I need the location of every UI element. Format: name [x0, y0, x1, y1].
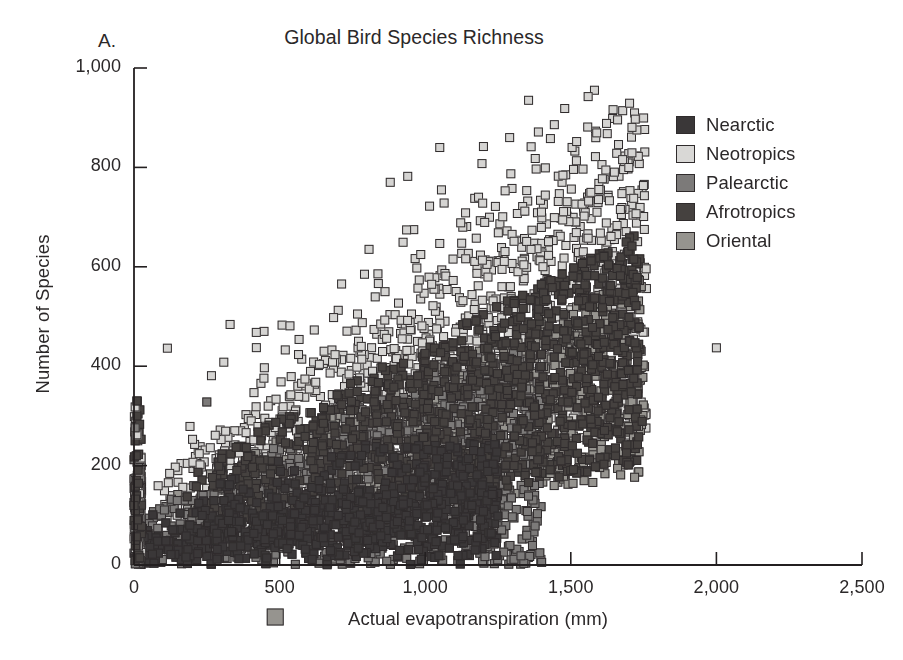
legend-swatch-icon	[676, 116, 695, 134]
x-tick-label: 2,000	[661, 577, 771, 598]
y-tick-label: 1,000	[31, 56, 121, 77]
legend-item-afrotropics[interactable]: Afrotropics	[676, 197, 796, 226]
x-axis-title: Actual evapotranspiration (mm)	[198, 608, 758, 630]
y-tick-label: 200	[31, 454, 121, 475]
x-tick-label: 2,500	[807, 577, 903, 598]
legend-item-oriental[interactable]: Oriental	[676, 226, 796, 255]
x-tick-label: 500	[225, 577, 335, 598]
y-tick-label: 800	[31, 155, 121, 176]
legend-item-label: Neotropics	[706, 143, 795, 165]
legend-item-label: Palearctic	[706, 172, 788, 194]
x-tick-label: 0	[79, 577, 189, 598]
x-tick-label: 1,500	[516, 577, 626, 598]
legend-item-neotropics[interactable]: Neotropics	[676, 139, 796, 168]
legend-swatch-icon	[676, 232, 695, 250]
legend-swatch-icon	[676, 145, 695, 163]
legend-item-label: Nearctic	[706, 114, 775, 136]
legend-item-label: Afrotropics	[706, 201, 796, 223]
legend-swatch-icon	[676, 203, 695, 221]
axis-frame	[0, 0, 903, 660]
figure-panel: A. Global Bird Species Richness 02004006…	[0, 0, 903, 660]
legend-swatch-icon	[676, 174, 695, 192]
x-tick-label: 1,000	[370, 577, 480, 598]
legend-item-palearctic[interactable]: Palearctic	[676, 168, 796, 197]
legend-item-label: Oriental	[706, 230, 772, 252]
legend: NearcticNeotropicsPalearcticAfrotropicsO…	[676, 110, 796, 255]
legend-item-nearctic[interactable]: Nearctic	[676, 110, 796, 139]
y-axis-title: Number of Species	[32, 194, 54, 434]
y-tick-label: 0	[31, 553, 121, 574]
